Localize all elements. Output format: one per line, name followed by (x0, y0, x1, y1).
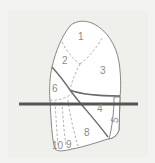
segment-label-2: 2 (62, 55, 68, 66)
segment-label-4: 4 (97, 103, 103, 114)
segment-label-6: 6 (52, 83, 58, 94)
segment-label-10: 10 (52, 140, 64, 151)
lung-diagram: 1 2 3 6 4 5 8 9 10 (0, 0, 155, 163)
segment-label-8: 8 (84, 127, 90, 138)
segment-label-9: 9 (66, 139, 72, 150)
segment-label-1: 1 (78, 31, 84, 42)
segment-label-3: 3 (100, 65, 106, 76)
